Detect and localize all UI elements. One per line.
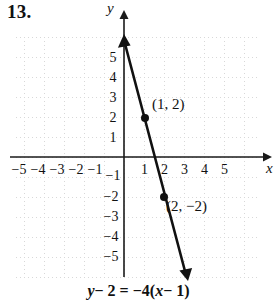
y-tick-label--1: −1 xyxy=(104,168,122,184)
x-tick-label--4: −4 xyxy=(30,162,46,178)
x-tick-label-2: 2 xyxy=(158,162,171,178)
x-tick-label-3: 3 xyxy=(178,162,191,178)
annotation-point-2-neg2: (2, −2) xyxy=(166,198,207,215)
graph-figure: 13. xyxy=(0,0,277,307)
y-tick-label--4: −4 xyxy=(100,229,122,245)
equation-tail: − 1) xyxy=(163,282,189,299)
equation-var-x: x xyxy=(155,282,163,299)
coordinate-plane xyxy=(0,0,277,307)
equation-caption: y− 2 = −4(x− 1) xyxy=(0,282,277,300)
y-tick-label--3: −3 xyxy=(100,209,122,225)
y-tick-label--2: −2 xyxy=(100,189,122,205)
y-tick-label--5: −5 xyxy=(100,249,122,265)
problem-number: 13. xyxy=(7,1,31,23)
y-tick-label-1: 1 xyxy=(106,130,120,146)
y-tick-label-4: 4 xyxy=(106,70,120,86)
x-tick-label--2: −2 xyxy=(68,162,84,178)
y-tick-label-5: 5 xyxy=(106,50,120,66)
x-axis-label: x xyxy=(266,160,273,177)
x-tick-label-1: 1 xyxy=(138,162,151,178)
y-tick-label-3: 3 xyxy=(106,90,120,106)
equation-mid: − 2 = −4( xyxy=(94,282,155,299)
y-axis-arrowhead xyxy=(120,10,129,19)
y-axis-label: y xyxy=(107,0,114,17)
x-tick-label-5: 5 xyxy=(218,162,231,178)
x-tick-label--1: −1 xyxy=(87,162,103,178)
x-tick-label-4: 4 xyxy=(198,162,211,178)
x-tick-label--3: −3 xyxy=(49,162,65,178)
x-tick-label--5: −5 xyxy=(11,162,27,178)
annotation-point-1-2: (1, 2) xyxy=(152,96,185,113)
data-point-1-2 xyxy=(141,114,149,122)
y-tick-label-2: 2 xyxy=(106,110,120,126)
